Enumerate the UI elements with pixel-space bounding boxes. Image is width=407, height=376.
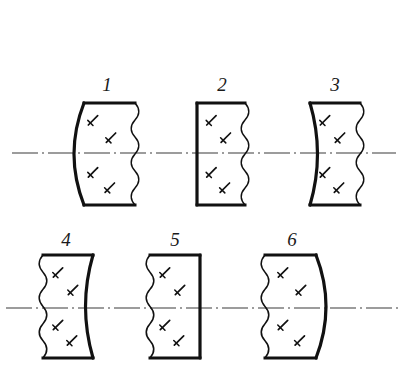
lens-5 bbox=[146, 255, 200, 358]
lens-shapes-layer bbox=[39, 103, 364, 358]
glass-hatch-mark bbox=[160, 268, 170, 278]
hatch-stroke bbox=[160, 268, 169, 277]
lens-4 bbox=[39, 255, 93, 358]
lens-number-label-3: 3 bbox=[330, 74, 340, 96]
hatch-stroke bbox=[174, 336, 183, 345]
hatch-stroke bbox=[295, 336, 304, 345]
lens-number-label-2: 2 bbox=[217, 74, 227, 96]
glass-hatch-mark bbox=[295, 336, 305, 346]
lens-2 bbox=[197, 103, 249, 205]
glass-hatch-mark bbox=[67, 336, 77, 346]
lens-1 bbox=[74, 103, 139, 205]
lens-number-label-1: 1 bbox=[102, 74, 112, 96]
lens-diagram-svg bbox=[0, 0, 407, 376]
hatch-stroke bbox=[67, 336, 76, 345]
glass-hatch-mark bbox=[278, 268, 288, 278]
lens-6 bbox=[261, 255, 326, 358]
drawing-sheet: 123456 bbox=[0, 0, 407, 376]
glass-hatch-mark bbox=[174, 336, 184, 346]
lens-number-label-4: 4 bbox=[61, 229, 71, 251]
hatch-stroke bbox=[278, 268, 287, 277]
lens-3 bbox=[310, 103, 364, 205]
hatch-stroke bbox=[53, 268, 62, 277]
glass-hatch-mark bbox=[53, 268, 63, 278]
lens-number-label-5: 5 bbox=[170, 229, 180, 251]
lens-number-label-6: 6 bbox=[287, 229, 297, 251]
